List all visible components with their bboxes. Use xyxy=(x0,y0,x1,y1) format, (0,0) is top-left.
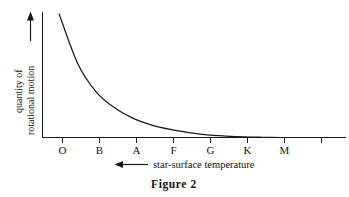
x-tick-label-m: M xyxy=(280,144,290,156)
figure-2-chart: quantity of rotational motion O B A F G … xyxy=(0,0,349,197)
figure-caption: Figure 2 xyxy=(151,178,197,191)
x-tick-label-k: K xyxy=(244,144,252,156)
y-axis-title-line1: quantity of xyxy=(13,69,24,113)
x-tick-label-a: A xyxy=(133,144,141,156)
x-tick-label-o: O xyxy=(59,144,67,156)
x-tick-label-g: G xyxy=(207,144,215,156)
y-axis-title-line2: rotational motion xyxy=(25,66,36,135)
x-tick-label-b: B xyxy=(96,144,103,156)
data-curve-rotational-motion xyxy=(59,14,281,138)
x-tick-label-f: F xyxy=(170,144,176,156)
x-axis-caption: star-surface temperature xyxy=(153,159,255,170)
up-arrow-icon xyxy=(27,12,34,42)
left-arrow-icon xyxy=(115,161,149,168)
figure-container: quantity of rotational motion O B A F G … xyxy=(0,0,349,197)
x-axis-ticks xyxy=(63,138,322,143)
